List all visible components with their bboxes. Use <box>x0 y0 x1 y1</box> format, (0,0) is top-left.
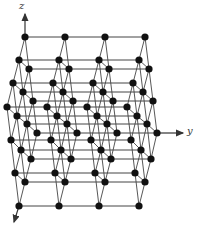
bond-line <box>139 182 145 206</box>
atom <box>27 155 34 162</box>
bond-line <box>63 92 67 124</box>
bond-line <box>7 83 13 107</box>
bond-line <box>97 92 103 116</box>
atom <box>83 103 90 110</box>
atom <box>139 88 146 95</box>
bond-line <box>105 37 109 69</box>
bond-line <box>33 101 37 133</box>
atom <box>107 155 114 162</box>
atom <box>59 88 66 95</box>
bond-line <box>139 60 143 92</box>
atom <box>3 103 10 110</box>
bond-line <box>143 92 147 124</box>
atom <box>137 146 144 153</box>
bond-line <box>95 173 99 206</box>
bond-line <box>127 83 133 107</box>
bond-line <box>151 133 157 159</box>
atom <box>147 155 154 162</box>
y-axis-label: y <box>187 125 193 136</box>
atom <box>103 120 110 127</box>
atom <box>129 79 136 86</box>
atom <box>105 65 112 72</box>
atom <box>43 103 50 110</box>
atom <box>145 65 152 72</box>
atom <box>109 97 116 104</box>
bond-line <box>29 69 33 101</box>
atom <box>149 97 156 104</box>
bond-line <box>25 37 29 69</box>
atom <box>153 129 160 136</box>
bond-line <box>87 83 93 107</box>
bond-line <box>113 101 117 133</box>
bond-line <box>135 173 139 206</box>
bond-line <box>55 173 59 206</box>
atom <box>61 178 68 185</box>
atom <box>47 136 54 143</box>
bond-line <box>107 124 111 159</box>
atom <box>29 97 36 104</box>
atom <box>123 103 130 110</box>
bond-line <box>101 124 107 150</box>
atom <box>13 112 20 119</box>
bond-line <box>111 133 117 159</box>
atom <box>55 202 62 209</box>
bond-line <box>19 182 25 206</box>
bond-line <box>73 101 77 133</box>
atom <box>73 129 80 136</box>
bond-line <box>91 140 95 173</box>
atom <box>127 136 134 143</box>
atom <box>135 56 142 63</box>
bond-line <box>23 92 27 124</box>
atom <box>23 120 30 127</box>
atom <box>101 33 108 40</box>
bond-line <box>133 83 137 116</box>
atom <box>93 112 100 119</box>
atom <box>67 155 74 162</box>
bond-line <box>17 116 21 150</box>
bond-line <box>61 150 65 182</box>
bond-line <box>21 150 25 182</box>
bond-line <box>11 140 15 173</box>
atom <box>9 79 16 86</box>
bond-line <box>99 182 105 206</box>
atom <box>15 56 22 63</box>
bond-line <box>153 101 157 133</box>
bond-line <box>7 107 11 140</box>
atom <box>95 202 102 209</box>
bond-line <box>53 83 57 116</box>
lattice-diagram <box>0 0 197 225</box>
atom <box>69 97 76 104</box>
bond-line <box>31 133 37 159</box>
bond-line <box>57 92 63 116</box>
bond-line <box>99 60 103 92</box>
atom <box>135 202 142 209</box>
atom <box>49 79 56 86</box>
atom <box>51 169 58 176</box>
atom <box>87 136 94 143</box>
bond-line <box>51 116 57 140</box>
atom <box>61 33 68 40</box>
atom <box>17 146 24 153</box>
bond-line <box>141 124 147 150</box>
bond-line <box>65 37 69 69</box>
bond-line <box>131 140 135 173</box>
atom <box>91 169 98 176</box>
atom <box>33 129 40 136</box>
bond-line <box>27 124 31 159</box>
bond-line <box>15 173 19 206</box>
atom <box>95 56 102 63</box>
z-axis-label: z <box>19 0 24 11</box>
atom <box>7 136 14 143</box>
bond-line <box>91 116 97 140</box>
bond-line <box>109 69 113 101</box>
bond-line <box>101 150 105 182</box>
atom <box>101 178 108 185</box>
atom <box>113 129 120 136</box>
bond-line <box>69 69 73 101</box>
atom <box>55 56 62 63</box>
bond-line <box>13 83 17 116</box>
bond-line <box>51 140 55 173</box>
atom <box>25 65 32 72</box>
bond-line <box>21 124 27 150</box>
bond-line <box>103 92 107 124</box>
